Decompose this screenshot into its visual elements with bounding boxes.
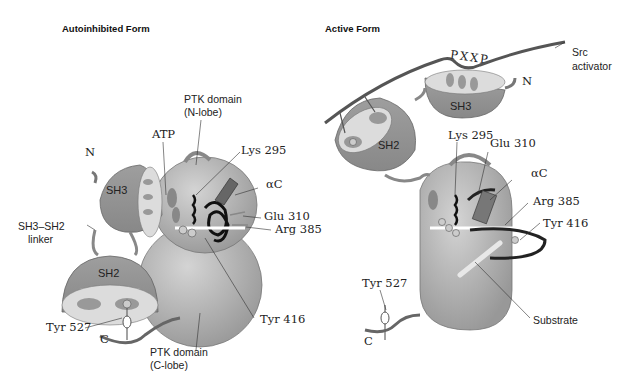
label-n-terminus-active: N [522, 76, 532, 88]
label-n-terminus: N [85, 147, 95, 159]
label-src: Src [572, 47, 588, 58]
label-sh3-sh2-linker: SH3–SH2 [18, 221, 65, 232]
label-alpha-c: αC [266, 179, 283, 191]
label-sh2-active: SH2 [378, 140, 399, 151]
panel-title-active: Active Form [325, 24, 380, 34]
label-c-terminus: C [100, 334, 109, 346]
label-ptk-c-lobe: PTK domain [150, 347, 208, 358]
label-c-terminus-active: C [364, 336, 373, 348]
label-arg385-active: Arg 385 [533, 196, 580, 208]
label-lys295: Lys 295 [241, 145, 286, 157]
label-lys295-active: Lys 295 [448, 130, 493, 142]
label-tyr416: Tyr 416 [260, 314, 305, 326]
label-linker: linker [28, 234, 53, 245]
label-glu310-active: Glu 310 [490, 138, 536, 150]
label-alpha-c-active: αC [531, 168, 548, 180]
label-tyr527: Tyr 527 [46, 322, 91, 334]
panel-title-autoinhibited: Autoinhibited Form [62, 24, 150, 34]
label-sh2: SH2 [98, 268, 119, 279]
label-tyr527-active: Tyr 527 [362, 278, 407, 290]
label-ptk-n-lobe: PTK domain [184, 94, 242, 105]
label-tyr416-active: Tyr 416 [543, 218, 588, 230]
label-substrate: Substrate [533, 315, 578, 326]
label-glu310: Glu 310 [264, 211, 310, 223]
label-ptk-c-lobe-sub: (C-lobe) [150, 360, 188, 371]
label-ptk-n-lobe-sub: (N-lobe) [184, 107, 222, 118]
label-arg385: Arg 385 [275, 224, 322, 236]
label-activator: activator [572, 61, 612, 72]
label-sh3: SH3 [106, 185, 127, 196]
label-sh3-active: SH3 [450, 101, 471, 112]
label-atp: ATP [152, 129, 175, 141]
